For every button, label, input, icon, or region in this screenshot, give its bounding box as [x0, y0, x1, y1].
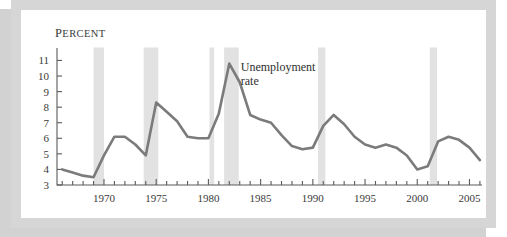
axis-unit-label-group: PERCENT [55, 26, 106, 40]
y-tick-label: 4 [44, 163, 50, 175]
y-tick-label: 3 [44, 179, 50, 191]
y-tick-label: 6 [44, 132, 50, 144]
data-series-line [62, 64, 480, 178]
unemployment-rate-line-chart: 34567891011 1970197519801985199019952000… [21, 10, 486, 218]
y-tick-labels-group: 34567891011 [38, 54, 50, 191]
x-tick-label: 1985 [250, 192, 273, 204]
figure-container: 34567891011 1970197519801985199019952000… [0, 0, 507, 237]
x-tick-label: 1990 [302, 192, 325, 204]
x-tick-label: 1995 [354, 192, 377, 204]
y-tick-label: 10 [38, 70, 50, 82]
y-tick-label: 5 [44, 148, 50, 160]
chart-plot-area: 34567891011 1970197519801985199019952000… [21, 10, 486, 218]
x-tick-label: 2000 [406, 192, 429, 204]
annotations-group: Unemploymentrate [241, 60, 316, 88]
x-tick-labels-group: 19701975198019851990199520002005 [93, 192, 481, 204]
x-tick-label: 2005 [458, 192, 481, 204]
x-tick-label: 1970 [93, 192, 116, 204]
recession-band [430, 48, 437, 186]
y-tick-label: 7 [44, 117, 50, 129]
recession-band [209, 48, 214, 186]
y-tick-label: 9 [44, 86, 50, 98]
recession-band [144, 48, 159, 186]
x-tick-label: 1980 [197, 192, 220, 204]
recession-band [318, 48, 325, 186]
y-tick-label: 11 [38, 54, 49, 66]
y-tick-label: 8 [44, 101, 50, 113]
x-tick-label: 1975 [145, 192, 168, 204]
y-axis-unit-label: PERCENT [55, 26, 106, 40]
series-annotation: Unemploymentrate [241, 60, 316, 88]
data-line-group [62, 64, 480, 178]
